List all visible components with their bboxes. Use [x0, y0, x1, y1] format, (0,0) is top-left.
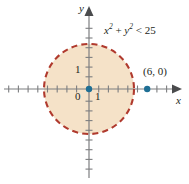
inequality-exp-y: 2 [129, 22, 133, 31]
tick-label-x-one: 1 [95, 91, 101, 102]
inequality-relation: < [136, 24, 142, 36]
tick-label-y-one: 1 [75, 64, 81, 75]
x-axis-label: x [176, 95, 181, 106]
tick-label-origin: 0 [75, 91, 81, 102]
origin-point[interactable] [86, 86, 92, 92]
point-6-0[interactable] [144, 86, 150, 92]
inequality-plus: + [115, 24, 121, 36]
y-axis-label: y [79, 3, 84, 14]
y-axis-arrowhead [85, 6, 94, 16]
inequality-label: x2 + y2 < 25 [104, 25, 156, 36]
inequality-graph-figure: y x 1 0 1 (6, 0) x2 + y2 < 25 [0, 0, 189, 184]
point-6-0-label: (6, 0) [143, 66, 167, 77]
x-axis-arrowhead [172, 85, 182, 94]
inequality-rhs: 25 [145, 24, 156, 36]
inequality-exp-x: 2 [109, 22, 113, 31]
